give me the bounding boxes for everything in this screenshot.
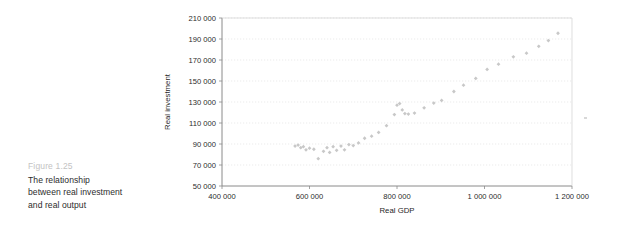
y-axis-tick-label: 90 000 xyxy=(193,140,216,149)
data-point xyxy=(525,51,529,55)
scatter-plot-canvas: 50 00070 00090 000110 000130 000150 0001… xyxy=(0,0,629,242)
data-point xyxy=(347,143,351,147)
y-axis-ticks-group: 50 00070 00090 000110 000130 000150 0001… xyxy=(189,14,222,191)
data-point xyxy=(304,148,308,152)
data-point xyxy=(497,62,501,66)
data-point xyxy=(413,111,417,115)
data-point xyxy=(316,157,320,161)
x-axis-tick-label: 1 000 000 xyxy=(468,192,502,201)
data-point xyxy=(385,124,389,128)
data-point xyxy=(403,112,407,116)
data-point xyxy=(422,106,426,110)
data-point xyxy=(343,148,347,152)
y-axis-tick-label: 190 000 xyxy=(189,35,216,44)
data-point xyxy=(400,108,404,112)
y-axis-title: Real investment xyxy=(163,73,172,130)
data-point xyxy=(296,143,300,147)
data-point xyxy=(556,31,560,35)
y-axis-tick-label: 150 000 xyxy=(189,77,216,86)
x-axis-tick-label: 600 000 xyxy=(296,192,323,201)
data-point xyxy=(452,90,456,94)
data-point xyxy=(328,151,332,155)
x-axis-tick-label: 1 200 000 xyxy=(555,192,589,201)
data-point xyxy=(339,144,343,148)
data-point xyxy=(370,134,374,138)
y-axis-tick-label: 170 000 xyxy=(189,56,216,65)
data-point xyxy=(293,144,297,148)
data-point xyxy=(308,146,312,150)
data-point xyxy=(440,99,444,103)
data-point xyxy=(485,68,489,72)
data-point xyxy=(325,146,329,150)
data-point xyxy=(377,131,381,135)
x-axis-tick-label: 800 000 xyxy=(383,192,410,201)
y-axis-tick-label: 130 000 xyxy=(189,98,216,107)
y-axis-tick-label: 50 000 xyxy=(193,182,216,191)
data-point xyxy=(392,113,396,117)
data-point xyxy=(335,148,339,152)
gridlines-group xyxy=(222,18,572,165)
scatter-chart: 50 00070 00090 000110 000130 000150 0001… xyxy=(0,0,629,242)
data-point xyxy=(322,149,326,153)
x-axis-tick-label: 400 000 xyxy=(208,192,235,201)
y-axis-tick-label: 70 000 xyxy=(193,161,216,170)
data-point xyxy=(511,55,515,59)
data-point xyxy=(331,145,335,149)
data-point xyxy=(312,147,316,151)
stray-print-mark xyxy=(584,117,587,119)
x-axis-ticks-group: 400 000600 000800 0001 000 0001 200 000 xyxy=(208,186,589,201)
y-axis-tick-label: 110 000 xyxy=(189,119,216,128)
data-point xyxy=(406,112,410,116)
data-point xyxy=(462,83,466,87)
figure-root: Figure 1.25 The relationship between rea… xyxy=(0,0,629,242)
data-point xyxy=(363,136,367,140)
y-axis-tick-label: 210 000 xyxy=(189,14,216,23)
data-points-group xyxy=(293,31,560,160)
data-point xyxy=(474,76,478,80)
data-point xyxy=(537,44,541,48)
x-axis-title: Real GDP xyxy=(379,206,414,215)
